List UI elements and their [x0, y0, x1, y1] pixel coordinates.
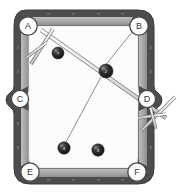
pocket-label-d: D [144, 94, 151, 104]
ball-lower-right[interactable]: 3 [92, 144, 104, 156]
pocket-label-b: B [136, 21, 142, 31]
pocket-d[interactable]: D [138, 90, 155, 107]
ball-lower-left[interactable]: 4 [58, 142, 70, 154]
pocket-a[interactable]: A [19, 17, 37, 35]
ball-upper-left[interactable]: 7 [52, 47, 64, 59]
pool-table-canvas: 7 2 4 3 A [0, 0, 180, 194]
pocket-label-a: A [25, 21, 31, 31]
pocket-label-e: E [27, 167, 33, 177]
pocket-e[interactable]: E [21, 163, 39, 181]
pocket-b[interactable]: B [130, 17, 148, 35]
ball-center[interactable]: 2 [99, 64, 113, 78]
playing-surface [27, 26, 140, 168]
pool-table-diagram: 7 2 4 3 A [0, 0, 180, 194]
pocket-label-c: C [17, 94, 24, 104]
pocket-c[interactable]: C [11, 90, 28, 107]
pocket-label-f: F [134, 167, 140, 177]
pocket-f[interactable]: F [128, 163, 146, 181]
